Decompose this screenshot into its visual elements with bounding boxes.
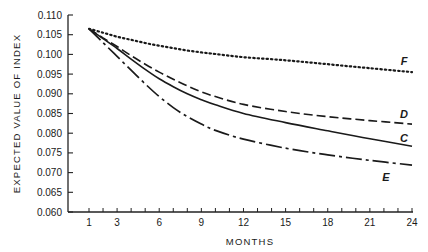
series-line-c [89, 29, 412, 146]
y-axis-title: EXPECTED VALUE OF INDEX [11, 34, 22, 193]
x-axis-title: MONTHS [226, 236, 274, 247]
y-tick-label: 0.090 [37, 88, 62, 99]
series-line-e [89, 29, 412, 165]
y-tick-label: 0.070 [37, 167, 62, 178]
x-tick-label: 21 [364, 217, 376, 228]
x-tick-label: 6 [156, 217, 162, 228]
y-tick-label: 0.080 [37, 128, 62, 139]
x-tick-label: 24 [406, 217, 418, 228]
y-tick-label: 0.065 [37, 187, 62, 198]
y-tick-label: 0.075 [37, 147, 62, 158]
y-tick-label: 0.105 [37, 29, 62, 40]
y-tick-label: 0.095 [37, 69, 62, 80]
series-label-d: D [400, 108, 408, 120]
chart-canvas: 0.0600.0650.0700.0750.0800.0850.0900.095… [0, 0, 428, 252]
y-tick-label: 0.100 [37, 49, 62, 60]
series-label-e: E [382, 171, 390, 183]
y-tick-label: 0.060 [37, 207, 62, 218]
y-tick-label: 0.110 [38, 10, 63, 21]
x-tick-label: 18 [322, 217, 334, 228]
x-tick-label: 1 [86, 217, 92, 228]
x-tick-label: 12 [238, 217, 250, 228]
series-line-f [89, 29, 412, 72]
x-tick-label: 9 [199, 217, 205, 228]
x-tick-label: 15 [280, 217, 292, 228]
line-chart: 0.0600.0650.0700.0750.0800.0850.0900.095… [0, 0, 428, 252]
series-label-f: F [401, 55, 408, 67]
x-tick-label: 3 [114, 217, 120, 228]
series-label-c: C [400, 132, 409, 144]
y-tick-label: 0.085 [37, 108, 62, 119]
